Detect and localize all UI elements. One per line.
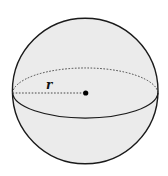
center-point: [83, 90, 88, 95]
sphere-diagram: r: [0, 0, 168, 176]
